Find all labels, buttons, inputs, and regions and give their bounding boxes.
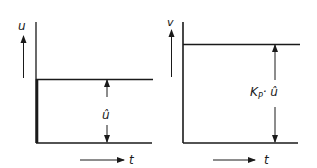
u-axis-label: u (18, 19, 26, 33)
output-response-panel: v KP· û t (167, 16, 300, 167)
step-response-diagram: u û t v KP· û t (0, 0, 317, 168)
gain-amplitude-label: KP· û (250, 85, 278, 101)
gain-multiplier: · û (263, 85, 279, 99)
amplitude-label: û (102, 108, 110, 122)
t-axis-label: t (264, 153, 270, 167)
input-step-panel: u û t (18, 19, 153, 167)
v-axis-label: v (167, 16, 174, 29)
t-axis-label: t (129, 153, 135, 167)
